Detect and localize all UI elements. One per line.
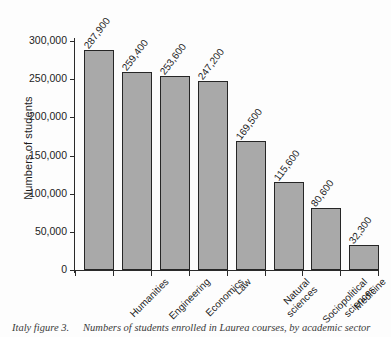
figure-caption: Italy figure 3.Numbers of students enrol…: [12, 322, 370, 333]
y-axis-tick-mark: [70, 117, 75, 118]
x-axis-category-label-line: Humanities: [128, 276, 171, 319]
x-axis-tick-mark: [189, 270, 190, 276]
bar: [349, 245, 379, 270]
x-axis-tick-mark: [340, 270, 341, 276]
y-axis-tick-label: 300,000: [29, 34, 67, 46]
bar: [311, 208, 341, 270]
figure-caption-id: Italy figure 3.: [12, 322, 69, 333]
figure-bar-chart: Numbers of students 050,000100,000150,00…: [0, 0, 391, 337]
bar-value-label: 32,300: [347, 215, 374, 246]
bar-value-label: 287,900: [82, 16, 113, 51]
x-axis-category-label-line: Engineering: [167, 276, 213, 322]
bar-value-label: 259,400: [119, 37, 150, 72]
y-axis-tick-mark: [70, 156, 75, 157]
bar-value-label: 253,600: [157, 42, 188, 77]
y-axis-tick-mark: [70, 79, 75, 80]
x-axis-category-label: Naturalsciences: [276, 276, 319, 319]
bar: [160, 76, 190, 270]
y-axis-tick-mark: [70, 194, 75, 195]
y-axis-tick-mark: [70, 232, 75, 233]
y-axis-tick-label: 100,000: [29, 187, 67, 199]
x-axis-tick-mark: [151, 270, 152, 276]
bar: [236, 141, 266, 270]
y-axis-tick-label: 150,000: [29, 149, 67, 161]
x-axis-tick-mark: [113, 270, 114, 276]
x-axis-category-label: Engineering: [167, 276, 213, 322]
y-axis-tick-label: 200,000: [29, 110, 67, 122]
x-axis-tick-mark: [75, 270, 76, 276]
y-axis-tick-label: 0: [61, 263, 67, 275]
y-axis-tick-mark: [70, 41, 75, 42]
bar-value-label: 115,600: [271, 148, 301, 183]
bar: [274, 182, 304, 270]
bar: [84, 50, 114, 270]
bar-value-label: 169,500: [233, 106, 264, 141]
figure-caption-text: Numbers of students enrolled in Laurea c…: [83, 322, 370, 333]
bar-value-label: 247,200: [195, 47, 226, 82]
bar: [122, 72, 152, 270]
y-axis-tick-label: 50,000: [35, 225, 67, 237]
x-axis-tick-mark: [227, 270, 228, 276]
bar: [198, 81, 228, 270]
y-axis-tick-label: 250,000: [29, 72, 67, 84]
x-axis-category-label: Humanities: [128, 276, 171, 319]
bar-value-label: 80,600: [309, 178, 336, 209]
x-axis-tick-mark: [265, 270, 266, 276]
